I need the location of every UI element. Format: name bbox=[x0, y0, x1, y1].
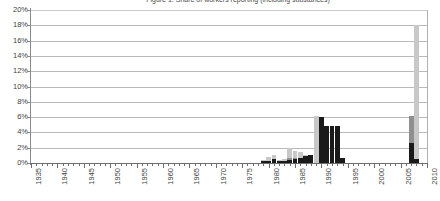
x-axis-minor-tick bbox=[369, 164, 370, 166]
y-axis-tick-label: 8% bbox=[2, 98, 28, 106]
y-axis-tick-label: 16% bbox=[2, 37, 28, 45]
x-axis-minor-tick bbox=[115, 164, 116, 166]
x-axis-major-tick bbox=[242, 164, 243, 168]
x-axis-tick-label: 1960 bbox=[167, 168, 175, 185]
x-axis-major-tick bbox=[163, 164, 164, 168]
x-axis-minor-tick bbox=[300, 164, 301, 166]
x-axis-major-tick bbox=[401, 164, 402, 168]
bar bbox=[330, 126, 335, 163]
chart-container: Figure 1. Share of workers reporting (in… bbox=[0, 0, 440, 201]
x-axis-minor-tick bbox=[89, 164, 90, 166]
y-axis-tick-label: 10% bbox=[2, 83, 28, 91]
x-axis-tick-label: 1995 bbox=[352, 168, 360, 185]
x-axis-tick-label: 1980 bbox=[273, 168, 281, 185]
x-axis-minor-tick bbox=[131, 164, 132, 166]
x-axis-minor-tick bbox=[158, 164, 159, 166]
x-axis-minor-tick bbox=[332, 164, 333, 166]
x-axis-minor-tick bbox=[42, 164, 43, 166]
chart-title: Figure 1. Share of workers reporting (in… bbox=[88, 0, 388, 4]
x-axis-minor-tick bbox=[343, 164, 344, 166]
x-axis-minor-tick bbox=[390, 164, 391, 166]
y-axis-tick-label: 14% bbox=[2, 52, 28, 60]
x-axis-minor-tick bbox=[79, 164, 80, 166]
x-axis-tick-label: 1970 bbox=[220, 168, 228, 185]
bar bbox=[409, 143, 414, 163]
x-axis-tick-label: 1990 bbox=[325, 168, 333, 185]
y-axis-tick-label: 6% bbox=[2, 113, 28, 121]
x-axis-minor-tick bbox=[306, 164, 307, 166]
y-axis-tick-label: 20% bbox=[2, 6, 28, 14]
x-axis-minor-tick bbox=[73, 164, 74, 166]
x-axis-minor-tick bbox=[411, 164, 412, 166]
x-axis-major-tick bbox=[57, 164, 58, 168]
x-axis-tick-label: 1945 bbox=[88, 168, 96, 185]
x-axis-minor-tick bbox=[52, 164, 53, 166]
bar bbox=[319, 117, 324, 163]
x-axis-minor-tick bbox=[406, 164, 407, 166]
x-axis-minor-tick bbox=[253, 164, 254, 166]
x-axis-minor-tick bbox=[263, 164, 264, 166]
x-axis-minor-tick bbox=[47, 164, 48, 166]
x-axis-major-tick bbox=[31, 164, 32, 168]
x-axis-minor-tick bbox=[152, 164, 153, 166]
x-axis-tick-label: 1940 bbox=[61, 168, 69, 185]
x-axis-minor-tick bbox=[422, 164, 423, 166]
x-axis-minor-tick bbox=[379, 164, 380, 166]
x-axis-minor-tick bbox=[290, 164, 291, 166]
x-axis-tick-label: 2005 bbox=[405, 168, 413, 185]
x-axis-tick-label: 2010 bbox=[431, 168, 439, 185]
x-axis-minor-tick bbox=[247, 164, 248, 166]
bar-series-area bbox=[31, 10, 427, 163]
x-axis-minor-tick bbox=[274, 164, 275, 166]
x-axis-major-tick bbox=[374, 164, 375, 168]
x-axis-minor-tick bbox=[142, 164, 143, 166]
x-axis-minor-tick bbox=[337, 164, 338, 166]
x-axis-major-tick bbox=[189, 164, 190, 168]
y-axis-tick-label: 4% bbox=[2, 128, 28, 136]
x-axis-tick-label: 1935 bbox=[35, 168, 43, 185]
x-axis-minor-tick bbox=[284, 164, 285, 166]
plot-right-border bbox=[427, 10, 428, 164]
x-axis-minor-tick bbox=[258, 164, 259, 166]
x-axis-minor-tick bbox=[232, 164, 233, 166]
x-axis-minor-tick bbox=[168, 164, 169, 166]
x-axis-minor-tick bbox=[327, 164, 328, 166]
x-axis-minor-tick bbox=[385, 164, 386, 166]
y-axis-labels: 0%2%4%6%8%10%12%14%16%18%20% bbox=[0, 0, 28, 201]
x-axis-minor-tick bbox=[179, 164, 180, 166]
x-axis-minor-tick bbox=[63, 164, 64, 166]
x-axis-major-tick bbox=[137, 164, 138, 168]
bar bbox=[335, 126, 340, 163]
x-axis-major-tick bbox=[110, 164, 111, 168]
x-axis-tick-label: 1950 bbox=[114, 168, 122, 185]
x-axis-major-tick bbox=[295, 164, 296, 168]
bar bbox=[414, 25, 419, 163]
x-axis-minor-tick bbox=[184, 164, 185, 166]
chart-title-strip: Figure 1. Share of workers reporting (in… bbox=[0, 0, 440, 7]
x-axis-major-tick bbox=[84, 164, 85, 168]
x-axis-minor-tick bbox=[174, 164, 175, 166]
x-axis-minor-tick bbox=[94, 164, 95, 166]
x-axis-major-tick bbox=[269, 164, 270, 168]
x-axis-minor-tick bbox=[311, 164, 312, 166]
x-axis-tick-label: 2000 bbox=[378, 168, 386, 185]
x-axis-major-tick bbox=[348, 164, 349, 168]
x-axis-minor-tick bbox=[100, 164, 101, 166]
x-axis-tick-label: 1985 bbox=[299, 168, 307, 185]
x-axis-minor-tick bbox=[195, 164, 196, 166]
y-axis-tick-label: 18% bbox=[2, 21, 28, 29]
bar bbox=[314, 116, 319, 163]
x-axis-minor-tick bbox=[105, 164, 106, 166]
x-axis-minor-tick bbox=[364, 164, 365, 166]
x-axis-tick-label: 1975 bbox=[246, 168, 254, 185]
x-axis-minor-tick bbox=[147, 164, 148, 166]
y-axis-tick-label: 2% bbox=[2, 144, 28, 152]
x-axis-minor-tick bbox=[226, 164, 227, 166]
x-axis-minor-tick bbox=[205, 164, 206, 166]
x-axis-minor-tick bbox=[316, 164, 317, 166]
y-axis-tick-label: 0% bbox=[2, 159, 28, 167]
x-axis-minor-tick bbox=[121, 164, 122, 166]
x-axis-minor-tick bbox=[279, 164, 280, 166]
x-axis-tick-label: 1965 bbox=[193, 168, 201, 185]
x-axis-minor-tick bbox=[126, 164, 127, 166]
